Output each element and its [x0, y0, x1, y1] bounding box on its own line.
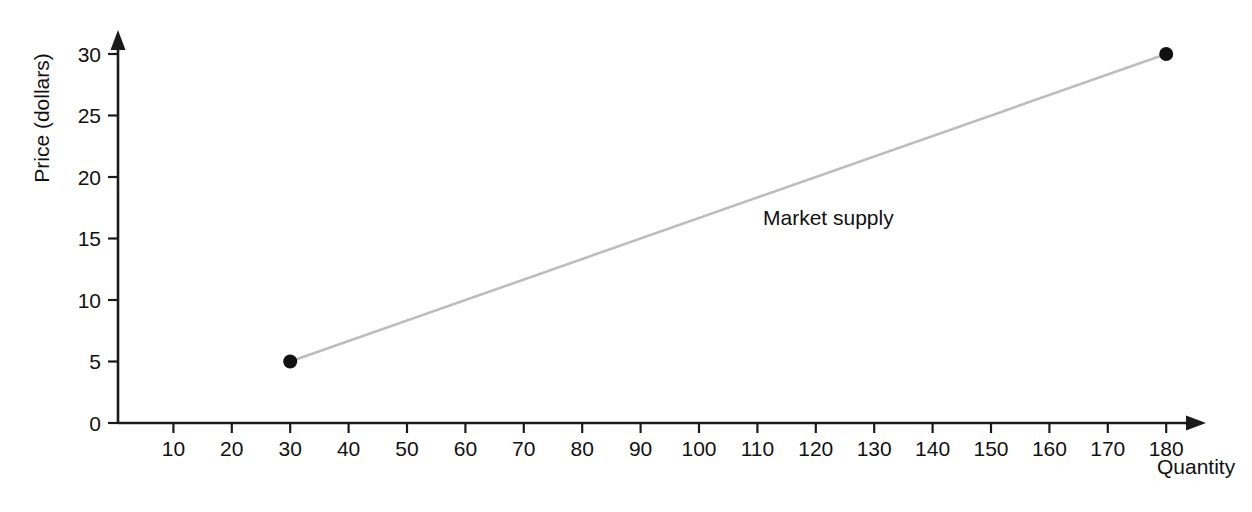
chart-canvas: 0 5 10 15 20 25 30	[0, 0, 1252, 512]
x-tick-label: 130	[857, 437, 892, 460]
x-tick-label: 80	[571, 437, 594, 460]
market-supply-label: Market supply	[763, 206, 894, 229]
y-tick-label: 20	[78, 166, 101, 189]
x-tick-label: 50	[395, 437, 418, 460]
y-tick-label: 5	[89, 350, 101, 373]
y-tick-label: 30	[78, 43, 101, 66]
market-supply-line	[290, 54, 1166, 362]
x-tick-label: 160	[1032, 437, 1067, 460]
y-axis-ticks	[108, 54, 118, 423]
y-axis-tick-labels: 0 5 10 15 20 25 30	[78, 43, 101, 435]
x-tick-label: 140	[915, 437, 950, 460]
axes-group	[111, 30, 1207, 431]
y-tick-label: 25	[78, 104, 101, 127]
x-tick-label: 40	[337, 437, 360, 460]
x-tick-label: 100	[681, 437, 716, 460]
x-tick-label: 60	[454, 437, 477, 460]
y-tick-label: 15	[78, 227, 101, 250]
x-tick-label: 150	[973, 437, 1008, 460]
y-axis-arrow-icon	[111, 30, 126, 50]
x-tick-label: 120	[798, 437, 833, 460]
y-tick-label: 0	[89, 412, 101, 435]
supply-curve-chart: 0 5 10 15 20 25 30	[0, 0, 1252, 512]
x-axis-ticks	[173, 423, 1166, 433]
x-tick-label: 170	[1090, 437, 1125, 460]
x-axis-arrow-icon	[1186, 416, 1206, 431]
x-tick-label: 20	[220, 437, 243, 460]
x-tick-label: 10	[162, 437, 185, 460]
y-axis-title: Price (dollars)	[30, 53, 53, 183]
x-tick-label: 30	[279, 437, 302, 460]
market-supply-series	[283, 47, 1173, 369]
x-tick-label: 90	[629, 437, 652, 460]
x-tick-label: 110	[741, 437, 774, 460]
y-tick-label: 10	[78, 289, 101, 312]
x-axis-title: Quantity	[1157, 455, 1236, 478]
x-axis-tick-labels: 10 20 30 40 50 60 70 80 90 100 110 120 1…	[162, 437, 1184, 460]
x-tick-label: 70	[512, 437, 535, 460]
data-point-marker	[283, 355, 297, 369]
data-point-marker	[1159, 47, 1173, 61]
